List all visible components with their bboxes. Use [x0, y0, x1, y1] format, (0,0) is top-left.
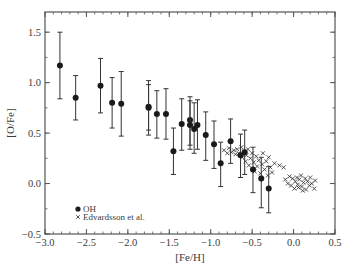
cross-marker-icon [260, 162, 264, 166]
oh-data-point [191, 103, 197, 153]
oh-data-point [98, 58, 104, 112]
y-tick-label: 1.5 [28, 27, 41, 38]
cross-marker-icon [250, 151, 254, 155]
y-tick-label: 1.0 [28, 77, 41, 88]
cross-marker-icon [248, 156, 252, 160]
cross-marker-icon [300, 185, 304, 189]
oh-data-point [73, 76, 79, 120]
cross-marker-icon [297, 178, 301, 182]
scatter-chart: −3.0−2.5−2.0−1.5−1.0−0.50.00.5−0.50.00.5… [0, 0, 353, 272]
oh-data-point [170, 128, 176, 174]
oh-data-point [238, 134, 244, 177]
cross-marker-icon [252, 160, 256, 164]
x-tick-label: −2.0 [118, 237, 137, 248]
legend-oh-marker-icon [75, 206, 80, 211]
cross-marker-icon [302, 181, 306, 185]
cross-marker-icon [306, 180, 310, 184]
cross-marker-icon [239, 145, 243, 149]
cross-marker-icon [313, 179, 317, 183]
oh-data-point [228, 119, 234, 163]
cross-marker-icon [235, 147, 239, 151]
oh-data-point [179, 99, 185, 150]
oh-data-point [163, 89, 169, 139]
cross-marker-icon [282, 165, 286, 169]
cross-marker-icon [258, 171, 262, 175]
oh-data-point [211, 121, 217, 168]
cross-marker-icon [257, 158, 261, 162]
cross-marker-icon [273, 161, 277, 165]
legend: OH Edvardsson et al. [75, 204, 144, 222]
cross-marker-icon [301, 189, 305, 193]
cross-marker-icon [292, 187, 296, 191]
cross-marker-icon [247, 163, 251, 167]
x-tick-label: −1.0 [201, 237, 220, 248]
oh-data-point [194, 100, 200, 149]
legend-cross-marker-icon [76, 215, 80, 219]
oh-data-point [154, 91, 160, 138]
oh-data-point [57, 32, 63, 99]
x-tick-label: 0.5 [328, 237, 341, 248]
cross-marker-icon [308, 175, 312, 179]
cross-marker-icon [225, 151, 229, 155]
cross-marker-icon [297, 186, 301, 190]
cross-marker-icon [254, 154, 258, 158]
legend-edvardsson-label: Edvardsson et al. [83, 212, 145, 222]
x-axis-label: [Fe/H] [175, 251, 204, 263]
oh-data-point [118, 72, 124, 137]
cross-marker-icon [264, 159, 268, 163]
x-tick-label: −2.5 [77, 237, 96, 248]
cross-marker-icon [304, 188, 308, 192]
oh-data-point [109, 78, 115, 128]
cross-marker-icon [296, 183, 300, 187]
x-tick-label: 0.0 [287, 237, 300, 248]
oh-series [57, 32, 272, 213]
cross-marker-icon [277, 163, 281, 167]
y-axis-label: [O/Fe] [4, 108, 16, 137]
edvardsson-series [222, 145, 317, 192]
cross-marker-icon [267, 155, 271, 159]
cross-marker-icon [270, 170, 274, 174]
cross-marker-icon [255, 164, 259, 168]
x-tick-label: −1.5 [160, 237, 179, 248]
cross-marker-icon [312, 187, 316, 191]
y-tick-label: 0.0 [28, 178, 41, 189]
cross-marker-icon [234, 152, 238, 156]
oh-data-point [203, 112, 209, 160]
y-tick-label: −0.5 [22, 229, 41, 240]
x-tick-label: −0.5 [243, 237, 262, 248]
cross-marker-icon [266, 173, 270, 177]
oh-data-point [242, 130, 248, 174]
oh-data-point [187, 101, 193, 149]
cross-marker-icon [232, 148, 236, 152]
cross-marker-icon [283, 178, 287, 182]
y-tick-label: 0.5 [28, 128, 41, 139]
cross-marker-icon [299, 173, 303, 177]
cross-marker-icon [244, 159, 248, 163]
cross-marker-icon [261, 151, 265, 155]
cross-marker-icon [263, 167, 267, 171]
oh-data-point [146, 85, 152, 130]
